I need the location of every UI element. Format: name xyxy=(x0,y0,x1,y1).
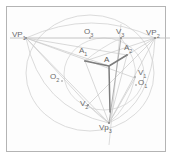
label-o3: O3 xyxy=(84,28,93,38)
perspective-construction-figure xyxy=(0,0,174,160)
marker-a2 xyxy=(126,54,128,56)
marker-v1 xyxy=(134,76,136,78)
label-a1-sub: 1 xyxy=(84,51,87,57)
label-a2-sub: 2 xyxy=(129,48,132,54)
label-vp2: VP2 xyxy=(146,29,160,39)
label-vp3-sub: 3 xyxy=(109,128,112,134)
label-v3-sub: 3 xyxy=(121,32,124,38)
label-o3-sub: 3 xyxy=(90,32,93,38)
label-o2-sub: 2 xyxy=(56,77,59,83)
label-vp2-sub: 2 xyxy=(157,33,160,39)
label-vp3-text: Vp xyxy=(99,123,109,132)
label-v2: V2 xyxy=(80,100,88,110)
label-vp1-text: VP xyxy=(12,30,23,39)
label-vp2-text: VP xyxy=(146,28,157,37)
label-o1: O1 xyxy=(138,79,147,89)
marker-o1 xyxy=(135,84,137,86)
label-vp1-sub: 1 xyxy=(23,35,26,41)
diagram-root: VP1 O3 V3 VP2 A1 A2 A O2 V1 O1 V2 Vp3 xyxy=(0,0,174,160)
label-vp1: VP1 xyxy=(12,31,26,41)
label-a-text: A xyxy=(104,55,109,64)
label-v2-sub: 2 xyxy=(85,104,88,110)
label-o2: O2 xyxy=(50,73,59,83)
label-a: A xyxy=(104,56,109,66)
marker-o2 xyxy=(61,80,63,82)
label-a1: A1 xyxy=(79,47,87,57)
point-markers xyxy=(25,37,156,124)
ray-vp1-vp3 xyxy=(26,38,109,123)
label-vp3: Vp3 xyxy=(99,124,112,134)
label-a2: A2 xyxy=(124,44,132,54)
arc-v3-a1 xyxy=(85,38,121,61)
marker-a1 xyxy=(84,60,86,62)
label-o1-sub: 1 xyxy=(144,83,147,89)
label-v3: V3 xyxy=(116,28,124,38)
segment-a-vertical xyxy=(109,66,110,112)
